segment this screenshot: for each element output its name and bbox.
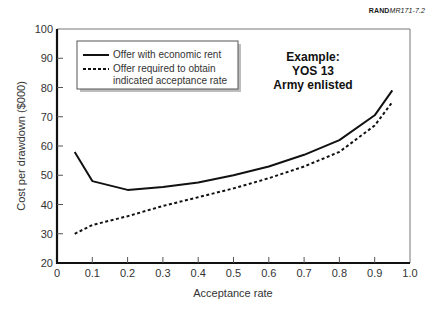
y-tick-label: 50 bbox=[41, 169, 53, 181]
y-tick-label: 40 bbox=[41, 199, 53, 211]
y-tick-label: 20 bbox=[41, 257, 53, 269]
x-tick-label: 0.1 bbox=[85, 267, 100, 279]
y-tick-label: 80 bbox=[41, 82, 53, 94]
x-tick-label: 0.4 bbox=[191, 267, 206, 279]
series-line-solid bbox=[75, 90, 393, 189]
legend-label-solid: Offer with economic rent bbox=[113, 49, 221, 60]
example-annotation: Example: YOS 13 Army enlisted bbox=[273, 50, 352, 92]
y-axis-title: Cost per drawdown ($000) bbox=[15, 81, 27, 211]
y-tick-label: 90 bbox=[41, 52, 53, 64]
x-tick-label: 0.7 bbox=[296, 267, 311, 279]
y-tick-label: 60 bbox=[41, 140, 53, 152]
x-tick-label: 0.5 bbox=[226, 267, 241, 279]
legend-label-dashed-1: Offer required to obtain bbox=[113, 63, 216, 74]
x-tick-label: 0.3 bbox=[155, 267, 170, 279]
x-tick-label: 0 bbox=[54, 267, 60, 279]
x-tick-label: 0.8 bbox=[332, 267, 347, 279]
x-tick-label: 1.0 bbox=[402, 267, 417, 279]
x-tick-label: 0.2 bbox=[120, 267, 135, 279]
y-tick-label: 70 bbox=[41, 111, 53, 123]
x-tick-label: 0.6 bbox=[261, 267, 276, 279]
y-tick-label: 30 bbox=[41, 228, 53, 240]
legend: Offer with economic rent Offer required … bbox=[77, 41, 241, 92]
data-series bbox=[75, 90, 393, 233]
legend-label-dashed-2: indicated acceptance rate bbox=[113, 75, 227, 86]
line-chart: 203040506070809010000.10.20.30.40.50.60.… bbox=[0, 0, 433, 313]
x-tick-label: 0.9 bbox=[367, 267, 382, 279]
annotation-line-3: Army enlisted bbox=[273, 78, 352, 92]
annotation-line-1: Example: bbox=[286, 50, 339, 64]
series-line-dashed bbox=[75, 102, 393, 234]
annotation-line-2: YOS 13 bbox=[292, 64, 334, 78]
y-tick-label: 100 bbox=[35, 23, 53, 35]
x-axis-title: Acceptance rate bbox=[193, 287, 273, 299]
